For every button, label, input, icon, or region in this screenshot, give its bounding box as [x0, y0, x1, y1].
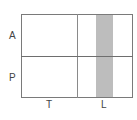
row-label-a: A — [9, 31, 16, 41]
column-label-t: T — [46, 100, 52, 110]
column-label-l: L — [101, 100, 107, 110]
row-label-p: P — [9, 73, 16, 83]
row-divider — [21, 56, 133, 57]
